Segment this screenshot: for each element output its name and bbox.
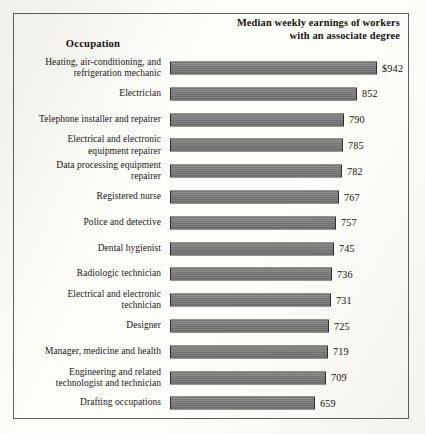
bar-category-label-line: equipment repairer: [13, 145, 161, 156]
bar: [170, 216, 336, 229]
bar-value-label: 785: [348, 140, 364, 151]
bar: [170, 345, 328, 358]
chart-bar-row: Drafting occupations659: [13, 391, 409, 415]
bar-track: 757: [170, 216, 409, 229]
bar-category-label-line: Drafting occupations: [13, 398, 161, 409]
bar-track: 852: [170, 87, 409, 100]
bar-category-label: Designer: [13, 320, 161, 331]
bar: [170, 139, 343, 152]
bar-category-label: Registered nurse: [13, 191, 161, 202]
bar: [170, 191, 339, 204]
bar-category-label: Drafting occupations: [13, 398, 161, 409]
figure-bar-chart: Median weekly earnings of workers with a…: [0, 0, 425, 434]
chart-bar-row: Registered nurse767: [13, 185, 409, 209]
bar-value-label: 659: [320, 398, 336, 409]
bar: [170, 113, 344, 126]
bar: [170, 87, 357, 100]
bar-value-label: 757: [341, 217, 357, 228]
bar-value-label: 719: [333, 346, 349, 357]
bar-category-label: Electrician: [13, 88, 161, 99]
chart-bar-row: Engineering and relatedtechnologist and …: [13, 366, 409, 390]
bar-category-label: Data processing equipmentrepairer: [13, 160, 161, 182]
bar-track: 709: [170, 371, 409, 384]
bar-category-label-line: Telephone installer and repairer: [13, 114, 161, 125]
bar-track: $942: [170, 62, 409, 75]
bar-category-label: Engineering and relatedtechnologist and …: [13, 366, 161, 388]
chart-bar-row: Police and detective757: [13, 211, 409, 235]
bar-track: 719: [170, 345, 409, 358]
bar-category-label-line: Data processing equipment: [13, 160, 161, 171]
bar-category-label: Radiologic technician: [13, 269, 161, 280]
bar-category-label: Heating, air-conditioning, andrefrigerat…: [13, 57, 161, 79]
bar: [170, 294, 331, 307]
bar-category-label-line: Heating, air-conditioning, and: [13, 57, 161, 68]
bar-category-label: Manager, medicine and health: [13, 346, 161, 357]
bar: [170, 62, 377, 75]
bar-value-label: 709: [331, 372, 347, 383]
bar-track: 790: [170, 113, 409, 126]
bar-category-label-line: Dental hygienist: [13, 243, 161, 254]
chart-bar-row: Radiologic technician736: [13, 262, 409, 286]
bar-value-label: 745: [339, 243, 355, 254]
bar-track: 782: [170, 165, 409, 178]
chart-bar-row: Telephone installer and repairer790: [13, 108, 409, 132]
bar: [170, 397, 315, 410]
bar-value-label: 767: [344, 192, 360, 203]
bar: [170, 320, 329, 333]
bar-value-label: 731: [336, 295, 352, 306]
bar-category-label-line: technologist and technician: [13, 378, 161, 389]
bar-category-label-line: Manager, medicine and health: [13, 346, 161, 357]
bar-track: 659: [170, 397, 409, 410]
bar-track: 745: [170, 242, 409, 255]
bar-category-label: Electrical and electronictechnician: [13, 289, 161, 311]
bar: [170, 165, 342, 178]
bar-category-label-line: Registered nurse: [13, 191, 161, 202]
chart-bar-row: Electrical and electronictechnician731: [13, 288, 409, 312]
chart-bar-row: Designer725: [13, 314, 409, 338]
chart-plot-area: Heating, air-conditioning, andrefrigerat…: [13, 0, 409, 434]
bar-track: 731: [170, 294, 409, 307]
bar-value-label: 725: [334, 321, 350, 332]
bar: [170, 242, 334, 255]
bar-track: 785: [170, 139, 409, 152]
bar: [170, 268, 332, 281]
bar-track: 767: [170, 191, 409, 204]
bar-value-label: 852: [362, 88, 378, 99]
bar-track: 736: [170, 268, 409, 281]
bar-category-label-line: Police and detective: [13, 217, 161, 228]
bar-category-label: Electrical and electronicequipment repai…: [13, 134, 161, 156]
chart-bar-row: Electrical and electronicequipment repai…: [13, 133, 409, 157]
bar-category-label-line: Designer: [13, 320, 161, 331]
bar-category-label: Telephone installer and repairer: [13, 114, 161, 125]
bar-category-label: Dental hygienist: [13, 243, 161, 254]
bar: [170, 371, 326, 384]
bar-value-label: 736: [337, 269, 353, 280]
bar-value-label: 782: [347, 166, 363, 177]
chart-bar-row: Data processing equipmentrepairer782: [13, 159, 409, 183]
bar-category-label-line: refrigeration mechanic: [13, 68, 161, 79]
chart-bar-row: Manager, medicine and health719: [13, 340, 409, 364]
bar-category-label-line: repairer: [13, 171, 161, 182]
bar-category-label-line: technician: [13, 300, 161, 311]
bar-category-label-line: Engineering and related: [13, 366, 161, 377]
bar-category-label-line: Electrical and electronic: [13, 134, 161, 145]
bar-category-label: Police and detective: [13, 217, 161, 228]
chart-bar-row: Electrician852: [13, 82, 409, 106]
bar-category-label-line: Electrical and electronic: [13, 289, 161, 300]
bar-value-label: 790: [349, 114, 365, 125]
bar-value-label: $942: [382, 63, 403, 74]
bar-track: 725: [170, 320, 409, 333]
chart-bar-row: Dental hygienist745: [13, 237, 409, 261]
bar-category-label-line: Radiologic technician: [13, 269, 161, 280]
bar-category-label-line: Electrician: [13, 88, 161, 99]
chart-bar-row: Heating, air-conditioning, andrefrigerat…: [13, 56, 409, 80]
